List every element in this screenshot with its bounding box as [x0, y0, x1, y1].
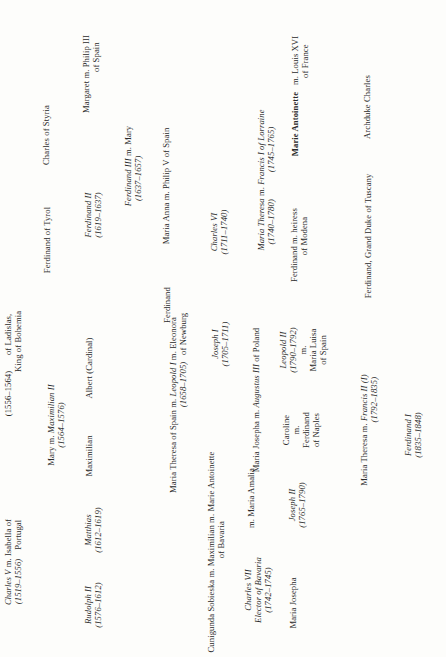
person-label-line: m.	[298, 327, 308, 373]
person-leopold-ii: Leopold II(1790–1792)m.Maria Luisaof Spa…	[278, 327, 328, 373]
person-label-line: Archduke Charles	[362, 75, 372, 139]
person-ferdinand-tuscany: Ferdinand, Grand Duke of Tuscany	[363, 174, 373, 299]
person-label-line: Maria Theresa of Spain m. Leopold I m. E…	[168, 313, 178, 497]
person-ferdinand-modena: Ferdinand m. heiress of Modena	[289, 208, 309, 282]
person-label-line: m.	[291, 412, 301, 448]
person-label-line: Ferdinand	[162, 287, 172, 323]
person-maria-anna: Maria Anna m. Philip V of Spain	[161, 128, 171, 245]
person-ferdinand-i-emperor: Ferdinand I(1835–1848)	[403, 412, 423, 458]
person-albert-cardinal: Albert (Cardinal)	[84, 337, 94, 398]
person-label-line: Maximilian	[84, 435, 94, 476]
person-label-line: (1742–1745)	[263, 557, 273, 623]
person-label-line: Ferdinand III m. Mary	[123, 126, 133, 207]
person-mary-maximilian-ii: Mary m. Maximilian II(1564–1576)	[46, 384, 66, 465]
person-label-line: Caroline	[281, 412, 291, 448]
person-label-line: of Spain	[91, 35, 101, 113]
person-label-line: (1619–1637)	[93, 192, 103, 238]
person-label-line: Maria Luisa	[308, 327, 318, 373]
person-maria-amalia: m. Maria Amalia	[246, 468, 256, 528]
person-label-line: (1564–1576)	[56, 384, 66, 465]
person-label-line: Margaret m. Philip III	[81, 35, 91, 113]
person-maximilian: Maximilian	[84, 435, 94, 476]
person-label-line: Elector of Bavaria	[253, 557, 263, 623]
person-maria-theresa: Maria Theresa m. Francis I of Lorraine(1…	[256, 109, 276, 250]
person-label-line: Maria Anna m. Philip V of Spain	[161, 128, 171, 245]
person-label-line: Joseph I	[210, 322, 220, 367]
person-label-line: of Bavaria	[216, 452, 226, 653]
person-label-line: m. Maria Amalia	[246, 468, 256, 528]
person-label-line: (1792–1835)	[369, 374, 379, 485]
person-label-line: Ferdinand II	[83, 192, 93, 238]
person-maria-josepha: Maria Josepha	[288, 577, 298, 628]
person-matthias: Matthias(1612–1619)	[83, 507, 103, 553]
person-label-line: Leopold II	[278, 327, 288, 373]
person-joseph-ii: Joseph II(1765–1790)	[287, 482, 307, 528]
person-rudolph-ii: Rudolph II(1576–1612)	[83, 582, 103, 628]
person-label-line: Maria Theresa m. Francis II (I)	[359, 374, 369, 485]
person-label-line: Charles V m. Isabella of	[3, 519, 13, 605]
person-label-line: (1711–1740)	[219, 210, 229, 255]
person-label-line: Ferdinand of Tyrol	[42, 207, 52, 273]
person-label-line: Albert (Cardinal)	[84, 337, 94, 398]
person-label-line: Ferdinand, Grand Duke of Tuscany	[363, 174, 373, 299]
person-label-line: King of Bohemia	[13, 311, 23, 419]
person-label-line: Ferdinand I	[403, 412, 413, 458]
person-ferdinand-iii: Ferdinand III m. Mary(1637–1657)	[123, 126, 143, 207]
person-label-line: (1740–1780) (1745–1765)	[266, 109, 276, 250]
person-label-line: (1765–1790)	[297, 482, 307, 528]
person-charles-vi: Charles VI(1711–1740)	[209, 210, 229, 255]
person-label-line: (1519–1556) Portugal	[13, 519, 23, 605]
person-ferdinand-ii: Ferdinand II(1619–1637)	[83, 192, 103, 238]
person-archduke-charles: Archduke Charles	[362, 75, 372, 139]
person-marie-antoinette: Marie Antoinette m. Louis XVI of France	[290, 36, 310, 156]
person-ferdinand-of-tyrol: Ferdinand of Tyrol	[42, 207, 52, 273]
person-label-line: (1576–1612)	[93, 582, 103, 628]
person-label-line: (1835–1848)	[413, 412, 423, 458]
person-joseph-i: Joseph I(1705–1711)	[210, 322, 230, 367]
person-label-line: Marie Antoinette m. Louis XVI	[290, 36, 300, 156]
person-francis-ii: Maria Theresa m. Francis II (I) (1792–18…	[359, 374, 379, 485]
person-caroline: Carolinem.Ferdinandof Naples	[281, 412, 321, 448]
person-label-line: (1705–1711)	[220, 322, 230, 367]
person-leopold-i: Maria Theresa of Spain m. Leopold I m. E…	[168, 313, 188, 497]
person-margaret: Margaret m. Philip III of Spain	[81, 35, 101, 113]
person-label-line: Matthias	[83, 507, 93, 553]
person-label-line: of Modena	[299, 208, 309, 282]
person-label-line: Charles of Styria	[41, 105, 51, 165]
person-label-line: Joseph II	[287, 482, 297, 528]
person-label-line: of Naples	[311, 412, 321, 448]
person-label-line: Ferdinand	[301, 412, 311, 448]
person-label-line: of Spain	[318, 327, 328, 373]
person-label-line: Cunigunda Sobieska m. Maximilian m. Mari…	[206, 452, 216, 653]
person-charles-v: Charles V m. Isabella of(1519–1556) Port…	[3, 519, 23, 605]
person-label-line: Ferdinand m. heiress	[289, 208, 299, 282]
person-ferdinand-son: Ferdinand	[162, 287, 172, 323]
person-label-line: (1790–1792)	[288, 327, 298, 373]
person-label-line: Maria Josepha	[288, 577, 298, 628]
person-label-line: Mary m. Maximilian II	[46, 384, 56, 465]
person-label-line: Charles VII	[243, 557, 253, 623]
person-label-line: Rudolph II	[83, 582, 93, 628]
person-label-line: Maria Theresa m. Francis I of Lorraine	[256, 109, 266, 250]
person-label-line: (1658–1705) of Newburg	[178, 313, 188, 497]
person-ferdinand-i-top: (1556–1564) of Ladislas, King of Bohemia	[3, 311, 23, 419]
person-label-line: (1556–1564) of Ladislas,	[3, 311, 13, 419]
person-label-line: (1612–1619)	[93, 507, 103, 553]
person-charles-vii: Charles VIIElector of Bavaria(1742–1745)	[243, 557, 273, 623]
person-charles-of-styria: Charles of Styria	[41, 105, 51, 165]
family-tree-diagram: Charles V m. Isabella of(1519–1556) Port…	[0, 0, 446, 657]
person-label-line: Charles VI	[209, 210, 219, 255]
person-label-line: (1637–1657)	[133, 126, 143, 207]
person-label-line: of France	[300, 36, 310, 156]
person-label-line: Maria Josepha m. Augustus III of Poland	[251, 328, 261, 473]
person-maria-josepha-augustus: Maria Josepha m. Augustus III of Poland	[251, 328, 261, 473]
person-cunigunda: Cunigunda Sobieska m. Maximilian m. Mari…	[206, 452, 226, 653]
